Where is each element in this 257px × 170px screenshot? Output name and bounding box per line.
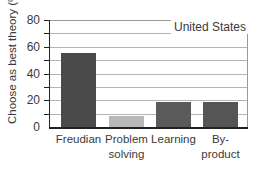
bar-learning: [156, 102, 191, 127]
y-tick-label: 80: [14, 14, 40, 26]
y-tick-mark: [44, 114, 49, 115]
bar-by-product: [203, 102, 238, 127]
y-tick-mark: [44, 100, 49, 101]
y-tick-label: 60: [14, 41, 40, 53]
y-tick-mark: [44, 87, 49, 88]
y-tick-label: 0: [14, 121, 40, 133]
gridline: [50, 47, 247, 48]
y-tick-mark: [44, 20, 49, 21]
y-tick-mark: [44, 60, 49, 61]
y-tick-mark: [44, 47, 49, 48]
x-axis-line: [49, 127, 248, 129]
y-tick-mark: [44, 33, 49, 34]
y-tick-mark: [44, 74, 49, 75]
bar-freudian: [61, 53, 96, 127]
y-axis-line: [49, 20, 50, 128]
y-tick-label: 20: [14, 94, 40, 106]
bar-problem-solving: [109, 116, 144, 127]
legend-label: United States: [171, 20, 249, 34]
x-tick-label: By-product: [193, 132, 249, 162]
y-tick-label: 40: [14, 68, 40, 80]
